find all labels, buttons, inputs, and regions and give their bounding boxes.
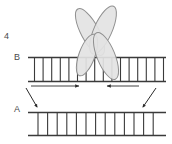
strand-label-a: A (14, 105, 20, 114)
diagram-canvas (0, 0, 172, 144)
figure-index-label: 4 (4, 32, 9, 41)
strand-label-b: B (14, 53, 20, 62)
